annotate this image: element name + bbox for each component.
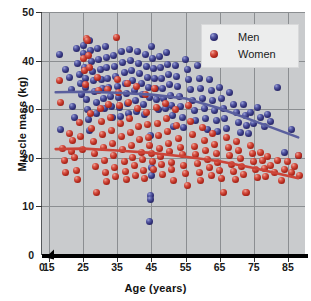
y-tick-mark (36, 206, 42, 207)
x-tick-mark (288, 258, 289, 262)
y-tick-mark (36, 109, 42, 110)
x-axis-line (42, 254, 308, 258)
y-axis-title: Muscle mass (kg) (16, 44, 28, 204)
x-tick-label: 45 (139, 262, 163, 273)
x-tick-mark (117, 258, 118, 262)
y-tick-label: 50 (8, 7, 34, 17)
legend-marker-women (210, 50, 218, 58)
y-tick-mark (36, 158, 42, 159)
x-tick-label: 75 (242, 262, 266, 273)
legend-marker-men (210, 33, 218, 41)
legend: Men Women (201, 24, 299, 68)
x-tick-mark (83, 258, 84, 262)
x-axis-title: Age (years) (0, 282, 311, 294)
x-tick-label: 35 (105, 262, 129, 273)
legend-label-women: Women (238, 47, 276, 62)
y-tick-mark (36, 61, 42, 62)
x-tick-label: 85 (276, 262, 300, 273)
legend-label-men: Men (238, 30, 259, 45)
axis-break-icon (45, 246, 62, 260)
x-tick-label: 55 (174, 262, 198, 273)
x-tick-mark (151, 258, 152, 262)
y-tick-mark (36, 12, 42, 13)
x-tick-label: 65 (208, 262, 232, 273)
x-tick-mark (186, 258, 187, 262)
x-tick-mark (220, 258, 221, 262)
y-tick-label: 0 (8, 250, 34, 260)
x-tick-mark (49, 258, 50, 262)
x-tick-mark (254, 258, 255, 262)
trendline-women (56, 149, 299, 179)
trendline-men (56, 92, 299, 138)
x-tick-label: 15 (37, 262, 61, 273)
muscle-mass-scatter-figure: 01020304050 01525354555657585 Muscle mas… (0, 0, 311, 301)
y-axis-line (41, 12, 42, 255)
x-tick-label: 25 (71, 262, 95, 273)
